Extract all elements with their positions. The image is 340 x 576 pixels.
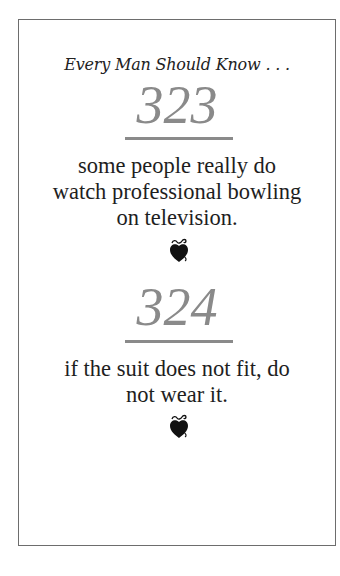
header-title: Every Man Should Know . . . [19,55,335,74]
entry-text: some people really do watch professional… [19,153,335,231]
entry-number: 324 [19,280,335,334]
heart-apple-icon [167,238,191,264]
number-underline [125,340,233,343]
entry-text-line: on television. [19,205,335,231]
entry-text-line: not wear it. [19,382,335,408]
number-underline [125,137,233,140]
heart-apple-icon [167,414,191,440]
entry-text-line: watch professional bowling [19,179,335,205]
page-card: Every Man Should Know . . . 323 some peo… [18,19,336,546]
entry-text-line: some people really do [19,153,335,179]
entry-number: 323 [19,78,335,132]
entry-text-line: if the suit does not fit, do [19,356,335,382]
entry-text: if the suit does not fit, do not wear it… [19,356,335,408]
